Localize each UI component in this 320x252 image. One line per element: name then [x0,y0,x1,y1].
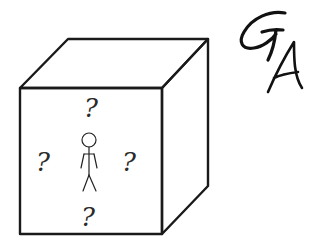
figure-arm-right [94,154,97,168]
cube-top-face [20,39,208,88]
cube-right-face [162,39,208,234]
question-mark-left: ? [36,147,51,177]
question-mark-above: ? [84,93,99,123]
figure-leg-left [83,175,89,191]
cube [20,39,208,234]
question-mark-right: ? [122,147,137,177]
figure-leg-right [89,175,96,191]
question-marks: ? ? ? ? [36,93,137,232]
question-mark-below: ? [81,202,96,232]
signature-ga [241,12,302,92]
stick-figure [81,133,97,191]
figure-arm-left [81,154,84,168]
figure-head [82,133,96,147]
signature-letter-g [241,12,285,60]
cube-diagram: ? ? ? ? [0,0,320,252]
